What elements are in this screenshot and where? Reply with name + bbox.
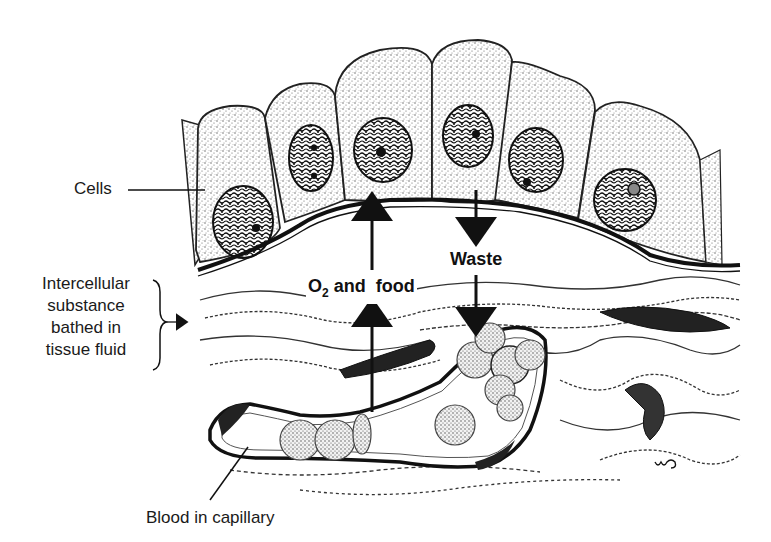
label-intercellular-line-2: substance <box>22 295 150 317</box>
capillary <box>210 323 546 470</box>
label-intercellular: Intercellular substance bathed in tissue… <box>22 273 150 361</box>
cells-layer <box>182 40 722 265</box>
diagram-canvas: Cells Intercellular substance bathed in … <box>0 0 771 542</box>
rbc <box>497 395 523 421</box>
rbc <box>353 414 371 454</box>
label-intercellular-line-3: bathed in <box>22 317 150 339</box>
intercellular-brace <box>153 280 166 370</box>
and-food-text: and food <box>329 276 415 296</box>
label-cells: Cells <box>74 178 112 200</box>
label-waste: Waste <box>448 248 504 270</box>
label-intercellular-line-1: Intercellular <box>22 273 150 295</box>
label-o2-and-food: O2 and food <box>306 275 417 304</box>
nucleus-1 <box>213 186 273 258</box>
label-intercellular-line-4: tissue fluid <box>22 339 150 361</box>
nucleus-4 <box>443 105 493 167</box>
tissue-illustration <box>0 0 771 542</box>
rbc <box>435 405 475 445</box>
o2-subscript: 2 <box>322 286 329 300</box>
o2-symbol: O <box>308 276 322 296</box>
nucleus-6 <box>594 169 656 231</box>
rbc <box>315 420 355 460</box>
artist-signature-mark <box>655 460 676 468</box>
rbc <box>280 420 320 460</box>
label-blood-in-capillary: Blood in capillary <box>146 507 275 529</box>
nucleus-5 <box>509 128 563 192</box>
rbc <box>515 340 545 370</box>
nucleus-2 <box>289 125 333 191</box>
